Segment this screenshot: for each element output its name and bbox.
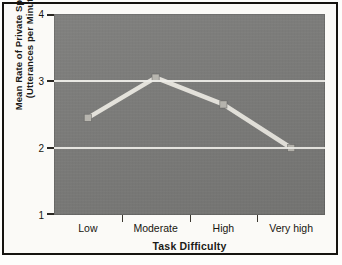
- x-axis-tick: [122, 215, 123, 222]
- y-axis-tick-label: 1: [24, 210, 44, 221]
- gridline: [54, 80, 325, 82]
- data-series-line: [54, 14, 325, 215]
- gridline: [54, 147, 325, 149]
- x-axis-tick-label: Very high: [269, 222, 313, 234]
- figure: Mean Rate of Private Speech (Utterances …: [0, 0, 342, 265]
- data-point-marker: [220, 101, 227, 108]
- x-axis-tick: [190, 215, 191, 222]
- y-axis-tick: [47, 213, 54, 215]
- x-axis-tick-label: Low: [78, 222, 97, 234]
- x-axis-tick-label: High: [213, 222, 235, 234]
- y-axis-tick: [47, 147, 54, 149]
- x-axis-tick-label: Moderate: [133, 222, 177, 234]
- series-line: [88, 78, 291, 148]
- y-axis-tick-label: 4: [24, 9, 44, 20]
- plot-area: [54, 14, 325, 215]
- y-axis: 1234: [24, 14, 54, 215]
- y-axis-tick-label: 3: [24, 76, 44, 87]
- x-axis-tick: [257, 215, 258, 222]
- y-axis-tick: [47, 14, 54, 16]
- y-axis-tick-label: 2: [24, 143, 44, 154]
- x-axis-title: Task Difficulty: [54, 240, 325, 252]
- x-axis-tick-labels: LowModerateHighVery high: [54, 222, 325, 238]
- data-point-marker: [84, 114, 91, 121]
- y-axis-tick: [47, 80, 54, 82]
